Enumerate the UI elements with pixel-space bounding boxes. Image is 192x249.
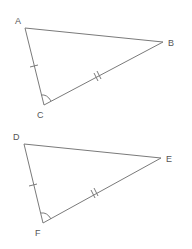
congruent-triangles-diagram: A B C D E F: [0, 0, 192, 249]
vertex-label-c: C: [37, 110, 44, 120]
tick-mark-df: [29, 184, 37, 186]
angle-arc-f: [41, 213, 51, 219]
triangle-abc-outline: [25, 28, 163, 105]
vertex-label-f: F: [35, 228, 41, 238]
triangle-def: [24, 144, 161, 223]
vertex-label-a: A: [15, 16, 21, 26]
vertex-label-d: D: [13, 132, 20, 142]
triangle-def-outline: [24, 144, 161, 223]
triangle-abc: [25, 28, 163, 105]
vertex-label-b: B: [168, 38, 174, 48]
tick-mark-ef-1: [91, 190, 95, 198]
vertex-label-e: E: [166, 154, 172, 164]
